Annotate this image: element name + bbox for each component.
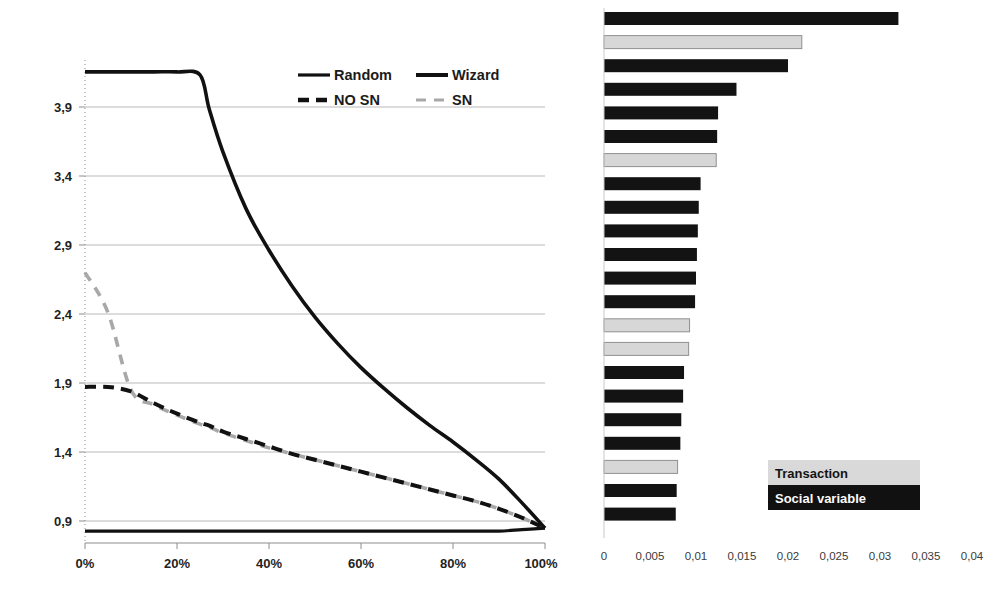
- bar-social-variable: [604, 437, 680, 450]
- series-line-sn: [85, 273, 545, 529]
- line-chart-legend: Random Wizard NO SN SN: [298, 67, 499, 108]
- bar-social-variable: [604, 130, 717, 143]
- legend-label-no-sn: NO SN: [334, 92, 380, 108]
- bar-chart-svg: 0 0,005 0,01 0,015 0,02 0,025 0,03 0,035…: [560, 0, 1005, 590]
- bar-x-tick-0015: 0,015: [728, 550, 757, 562]
- bar-x-tick-0: 0: [601, 550, 607, 562]
- y-tick-label-1-4: 1,4: [54, 445, 73, 460]
- bar-social-variable: [604, 413, 681, 426]
- bar-social-variable: [604, 177, 701, 190]
- bar-transaction: [604, 154, 716, 167]
- bar-social-variable: [604, 83, 736, 96]
- bar-social-variable: [604, 484, 677, 497]
- y-tick-label-2-9: 2,9: [54, 238, 72, 253]
- bar-social-variable: [604, 366, 684, 379]
- line-chart-axes: [79, 60, 545, 549]
- legend-label-transaction: Transaction: [775, 466, 848, 481]
- series-line-no-sn: [85, 387, 545, 529]
- x-tick-label-100pct: 100%: [524, 556, 558, 571]
- bar-x-tick-004: 0,04: [961, 550, 984, 562]
- bar-social-variable: [604, 508, 676, 521]
- x-tick-label-80pct: 80%: [440, 556, 466, 571]
- bar-social-variable: [604, 201, 699, 214]
- bar-chart-bars: [604, 12, 898, 521]
- figure-container: 3,9 3,4 2,9 2,4 1,9 1,4 0,9 0% 20% 40% 6…: [0, 0, 1005, 590]
- x-tick-label-20pct: 20%: [164, 556, 190, 571]
- legend-label-social-variable: Social variable: [775, 491, 866, 506]
- x-tick-label-60pct: 60%: [348, 556, 374, 571]
- bar-social-variable: [604, 224, 698, 237]
- bar-social-variable: [604, 12, 898, 25]
- bar-chart-panel: 0 0,005 0,01 0,015 0,02 0,025 0,03 0,035…: [560, 0, 1005, 590]
- bar-social-variable: [604, 272, 696, 285]
- x-tick-label-40pct: 40%: [256, 556, 282, 571]
- bar-x-tick-0005: 0,005: [636, 550, 665, 562]
- bar-transaction: [604, 460, 678, 473]
- bar-social-variable: [604, 390, 683, 403]
- bar-x-tick-0025: 0,025: [820, 550, 849, 562]
- bar-x-tick-002: 0,02: [777, 550, 799, 562]
- bar-chart-legend: Transaction Social variable: [768, 460, 920, 510]
- bar-x-tick-0035: 0,035: [912, 550, 941, 562]
- legend-label-wizard: Wizard: [452, 67, 499, 83]
- y-tick-label-2-4: 2,4: [54, 307, 73, 322]
- y-tick-label-3-9: 3,9: [54, 100, 72, 115]
- line-chart-panel: 3,9 3,4 2,9 2,4 1,9 1,4 0,9 0% 20% 40% 6…: [0, 0, 560, 590]
- bar-x-tick-003: 0,03: [869, 550, 891, 562]
- bar-x-tick-001: 0,01: [685, 550, 707, 562]
- bar-social-variable: [604, 248, 697, 261]
- x-tick-label-0pct: 0%: [76, 556, 95, 571]
- series-line-random: [85, 528, 545, 531]
- bar-social-variable: [604, 295, 695, 308]
- y-tick-label-1-9: 1,9: [54, 376, 72, 391]
- bar-transaction: [604, 36, 802, 49]
- bar-social-variable: [604, 106, 718, 119]
- legend-label-sn: SN: [452, 92, 472, 108]
- bar-social-variable: [604, 59, 788, 72]
- bar-transaction: [604, 342, 689, 355]
- y-tick-label-0-9: 0,9: [54, 514, 72, 529]
- y-tick-label-3-4: 3,4: [54, 169, 73, 184]
- bar-transaction: [604, 319, 690, 332]
- legend-label-random: Random: [334, 67, 392, 83]
- line-chart-svg: 3,9 3,4 2,9 2,4 1,9 1,4 0,9 0% 20% 40% 6…: [0, 0, 560, 590]
